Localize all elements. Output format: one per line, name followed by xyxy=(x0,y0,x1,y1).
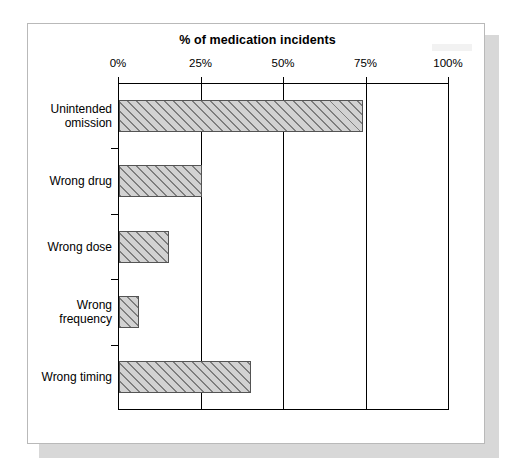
bar xyxy=(119,361,251,393)
category-label: Wrong frequency xyxy=(2,298,112,326)
grid-line-75pct xyxy=(366,83,367,410)
category-label: Unintended omission xyxy=(2,102,112,130)
y-tick-mark xyxy=(111,279,118,280)
category-label: Wrong drug xyxy=(2,174,112,188)
bar xyxy=(119,100,363,132)
bar xyxy=(119,296,139,328)
x-tick-mark xyxy=(118,77,119,83)
x-tick-mark xyxy=(448,77,449,83)
chart-title: % of medication incidents xyxy=(0,33,515,47)
x-tick-label: 100% xyxy=(433,57,462,69)
y-axis-category-labels: Unintended omissionWrong drugWrong doseW… xyxy=(0,83,112,410)
bar xyxy=(119,165,202,197)
bar xyxy=(119,231,169,263)
x-tick-label: 75% xyxy=(354,57,377,69)
x-tick-label: 0% xyxy=(110,57,127,69)
category-label: Wrong timing xyxy=(2,370,112,384)
x-tick-mark xyxy=(201,77,202,83)
x-tick-mark xyxy=(283,77,284,83)
x-tick-label: 25% xyxy=(189,57,212,69)
plot-area: 0%25%50%75%100% xyxy=(118,83,448,410)
y-tick-mark xyxy=(111,345,118,346)
x-tick-label: 50% xyxy=(271,57,294,69)
y-tick-mark xyxy=(111,214,118,215)
x-tick-mark xyxy=(366,77,367,83)
y-tick-mark xyxy=(111,148,118,149)
grid-line-50pct xyxy=(283,83,284,410)
grid-line-100pct xyxy=(448,83,449,410)
category-label: Wrong dose xyxy=(2,240,112,254)
